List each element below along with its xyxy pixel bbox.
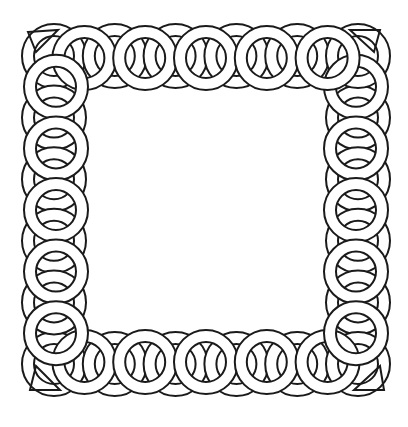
knotwork-frame — [0, 0, 408, 427]
interlaced-rings — [28, 30, 384, 390]
